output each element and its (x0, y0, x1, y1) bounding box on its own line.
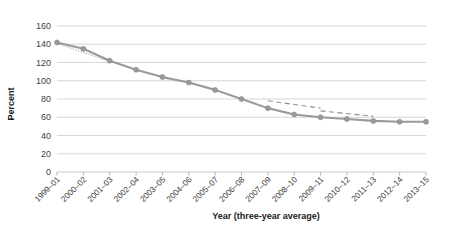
y-tick-label: 100 (36, 76, 51, 86)
y-axis-title: Percent (6, 87, 16, 120)
y-tick-label: 40 (41, 131, 51, 141)
line-chart: 020406080100120140160 1999–012000–022001… (0, 0, 454, 239)
y-tick-label: 160 (36, 21, 51, 31)
data-point-marker (55, 40, 60, 45)
data-point-marker (107, 58, 112, 63)
data-point-marker (186, 80, 191, 85)
y-tick-label: 80 (41, 94, 51, 104)
data-point-marker (239, 97, 244, 102)
data-point-marker (81, 46, 86, 51)
x-axis-title: Year (three-year average) (212, 211, 320, 221)
chart-container: 020406080100120140160 1999–012000–022001… (0, 0, 454, 239)
data-point-marker (160, 75, 165, 80)
data-point-marker (397, 119, 402, 124)
data-point-marker (344, 117, 349, 122)
data-point-marker (318, 115, 323, 120)
y-tick-label: 60 (41, 112, 51, 122)
chart-background (0, 0, 454, 239)
data-point-marker (265, 106, 270, 111)
data-point-marker (134, 67, 139, 72)
data-point-marker (292, 112, 297, 117)
data-point-marker (371, 118, 376, 123)
y-tick-label: 20 (41, 149, 51, 159)
y-tick-label: 140 (36, 39, 51, 49)
y-tick-label: 120 (36, 58, 51, 68)
data-point-marker (424, 119, 429, 124)
y-tick-label: 0 (46, 167, 51, 177)
data-point-marker (213, 87, 218, 92)
